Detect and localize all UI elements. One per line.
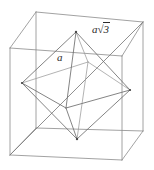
radical-expression: a√3	[92, 24, 110, 35]
cube-edge-connect-top-left	[10, 12, 36, 48]
octa-edge-bottom-front	[66, 108, 77, 139]
cube-edge-back-bottom	[36, 128, 143, 131]
octa-edge-bottom-back	[77, 62, 88, 139]
vertex-right	[129, 89, 131, 91]
cube-edge-connect-top-right	[122, 22, 143, 56]
figure-canvas	[0, 0, 154, 170]
radicand-value: 3	[103, 22, 110, 35]
vertex-bottom	[76, 138, 78, 140]
vertex-top	[75, 31, 77, 33]
geometry-figure: a a√3	[0, 0, 154, 170]
space-diagonal-segment	[10, 22, 143, 155]
edge-length-label: a	[57, 52, 63, 63]
octa-edge-top-left	[22, 32, 76, 83]
cube-edge-front-top	[10, 48, 122, 56]
cube-edge-connect-bottom-right	[122, 131, 143, 160]
octa-edge-left-front	[22, 83, 66, 108]
octahedron-vertices	[21, 31, 131, 140]
octa-edge-right-back	[88, 62, 130, 90]
cube-edge-front-bottom	[10, 155, 122, 160]
octa-edge-back-left	[22, 62, 88, 83]
space-diagonal-label: a√3	[92, 24, 110, 35]
space-diagonal-line	[10, 22, 143, 155]
vertex-left	[21, 82, 23, 84]
octa-edge-top-front	[66, 32, 76, 108]
octa-edge-top-back	[76, 32, 88, 62]
cube-edge-back-top	[36, 12, 143, 22]
octa-edge-bottom-left	[22, 83, 77, 139]
octahedron-wireframe	[22, 32, 130, 139]
